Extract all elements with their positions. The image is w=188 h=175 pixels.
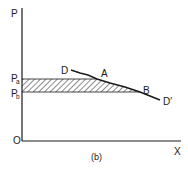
- hatched-band: [22, 79, 140, 92]
- pa-label: P a: [11, 73, 20, 85]
- point-b-label: B: [143, 85, 150, 96]
- point-a-label: A: [101, 68, 108, 79]
- x-axis-label: X: [174, 146, 181, 157]
- demand-diagram: P O X P a P b D A B D′ (b): [0, 0, 188, 175]
- pb-label: P b: [11, 88, 20, 100]
- figure-caption: (b): [91, 152, 102, 162]
- origin-label: O: [13, 135, 21, 146]
- svg-text:b: b: [16, 93, 20, 100]
- y-axis-label: P: [11, 8, 18, 19]
- curve-end-label: D′: [163, 96, 172, 107]
- svg-text:a: a: [16, 78, 20, 85]
- curve-start-label: D: [61, 65, 68, 76]
